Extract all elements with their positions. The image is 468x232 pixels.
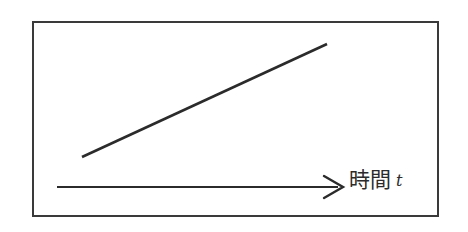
time-variable-symbol: t bbox=[391, 171, 402, 190]
time-axis-label-text: 時間 bbox=[349, 168, 391, 192]
figure-container: 時間t bbox=[0, 0, 468, 232]
figure-canvas bbox=[0, 0, 468, 232]
rising-trend-line bbox=[82, 44, 327, 157]
time-axis-label: 時間t bbox=[349, 167, 402, 195]
